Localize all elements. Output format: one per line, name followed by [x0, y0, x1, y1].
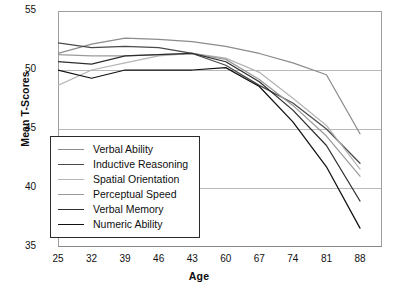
- y-tick-label: 45: [10, 122, 36, 133]
- x-tick-label: 74: [278, 253, 308, 264]
- legend-color-swatch: [58, 194, 84, 195]
- x-tick-label: 32: [77, 253, 107, 264]
- y-axis-tick-labels: 3540455055: [8, 0, 36, 290]
- legend-item: Inductive Reasoning: [58, 157, 188, 172]
- x-tick-label: 60: [211, 253, 241, 264]
- x-tick-label: 39: [110, 253, 140, 264]
- legend-color-swatch: [58, 224, 84, 225]
- x-tick-label: 46: [144, 253, 174, 264]
- legend-item: Verbal Ability: [58, 142, 188, 157]
- x-tick-label: 88: [345, 253, 375, 264]
- legend-item: Perceptual Speed: [58, 187, 188, 202]
- legend-label: Numeric Ability: [93, 217, 162, 232]
- legend-label: Verbal Memory: [93, 202, 164, 217]
- legend-label: Perceptual Speed: [93, 187, 176, 202]
- chart-legend: Verbal AbilityInductive ReasoningSpatial…: [50, 136, 200, 238]
- y-tick-label: 35: [10, 240, 36, 251]
- y-tick-label: 50: [10, 63, 36, 74]
- legend-label: Verbal Ability: [93, 142, 153, 157]
- legend-color-swatch: [58, 164, 84, 165]
- legend-label: Inductive Reasoning: [93, 157, 188, 172]
- x-tick-label: 25: [43, 253, 73, 264]
- x-axis-label: Age: [0, 270, 398, 282]
- legend-item: Spatial Orientation: [58, 172, 188, 187]
- legend-color-swatch: [58, 179, 84, 180]
- chart-container: Mean T-Scores Age 3540455055 25323946436…: [0, 0, 398, 290]
- legend-item: Verbal Memory: [58, 202, 188, 217]
- y-tick-label: 55: [10, 4, 36, 15]
- legend-label: Spatial Orientation: [93, 172, 179, 187]
- legend-item: Numeric Ability: [58, 217, 188, 232]
- y-tick-label: 40: [10, 181, 36, 192]
- x-tick-label: 43: [177, 253, 207, 264]
- legend-color-swatch: [58, 209, 84, 210]
- x-tick-label: 67: [244, 253, 274, 264]
- legend-color-swatch: [58, 149, 84, 150]
- x-tick-label: 81: [311, 253, 341, 264]
